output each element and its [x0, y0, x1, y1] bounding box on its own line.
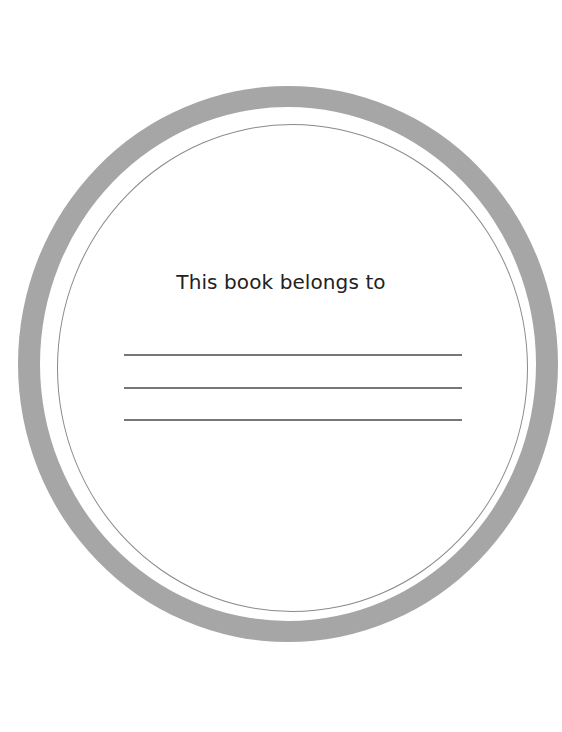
- name-line-3: [124, 419, 462, 421]
- name-line-1: [124, 354, 462, 356]
- bookplate-title: This book belongs to: [0, 270, 562, 294]
- inner-circle-outline: [57, 124, 528, 612]
- name-line-2: [124, 387, 462, 389]
